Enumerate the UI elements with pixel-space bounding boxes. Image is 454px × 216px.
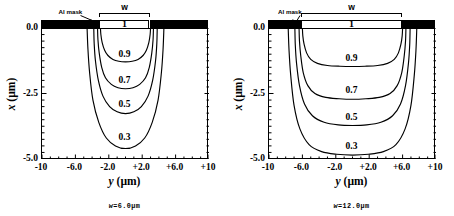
x-axis-variable: y xyxy=(336,175,341,187)
x-tick-label: -10 xyxy=(35,163,48,173)
x-tick-label: +10 xyxy=(428,163,443,173)
x-tick-label: -2.0 xyxy=(327,163,342,173)
surface-baseline xyxy=(268,28,435,29)
panel-right: w Al mask 1 0.90.70.50.3 -10-6.0-2.0+2.0… xyxy=(227,0,454,216)
y-axis-variable: x xyxy=(232,104,244,110)
x-tick-label: -10 xyxy=(262,163,275,173)
bracket-tick-right xyxy=(401,13,402,17)
x-tick-label: +2.0 xyxy=(133,163,150,173)
bracket-tick-right xyxy=(149,13,150,17)
contour-label-0.3: 0.3 xyxy=(345,142,359,152)
y-axis-title: x (µm) xyxy=(6,77,18,110)
contour-label-0.7: 0.7 xyxy=(118,76,132,86)
bracket-bar xyxy=(301,13,401,14)
x-tick-label: +2.0 xyxy=(360,163,377,173)
contour-line-0.5 xyxy=(295,28,410,125)
surface-baseline xyxy=(41,28,208,29)
contour-label-0.5: 0.5 xyxy=(345,113,359,123)
x-axis-unit: (µm) xyxy=(344,175,368,187)
surface-concentration-label: 1 xyxy=(349,19,354,29)
x-tick-label: -2.0 xyxy=(100,163,115,173)
al-mask-label: Al mask xyxy=(278,9,302,15)
contour-label-0.7: 0.7 xyxy=(345,87,359,97)
x-axis-title: y (µm) xyxy=(336,176,368,188)
al-mask-label: Al mask xyxy=(59,9,83,15)
y-tick-label: 0.0 xyxy=(7,23,38,33)
contour-label-0.5: 0.5 xyxy=(118,101,132,111)
y-axis-variable: x xyxy=(5,104,17,110)
contour-label-0.9: 0.9 xyxy=(118,50,132,60)
panel-left: w Al mask 1 0.90.70.50.3 -10-6.0-2.0+2.0… xyxy=(0,0,227,216)
panel-caption-right: w=12.0µm xyxy=(334,203,370,210)
width-label: w xyxy=(121,3,128,12)
y-axis-unit: (µm) xyxy=(232,77,244,101)
surface-concentration-label: 1 xyxy=(122,19,127,29)
y-tick-label: -5.0 xyxy=(7,154,38,164)
x-axis-title: y (µm) xyxy=(109,176,141,188)
x-axis-variable: y xyxy=(109,175,114,187)
bracket-tick-left xyxy=(99,13,100,17)
x-tick-label: -6.0 xyxy=(67,163,82,173)
y-tick-label: -5.0 xyxy=(234,154,265,164)
bracket-bar xyxy=(99,13,149,14)
x-axis-unit: (µm) xyxy=(117,175,141,187)
x-tick-label: -6.0 xyxy=(294,163,309,173)
contour-label-0.3: 0.3 xyxy=(118,133,132,143)
y-tick-label: 0.0 xyxy=(234,23,265,33)
contour-label-0.9: 0.9 xyxy=(345,54,359,64)
contour-figure: w Al mask 1 0.90.70.50.3 -10-6.0-2.0+2.0… xyxy=(0,0,454,216)
width-label: w xyxy=(348,3,355,12)
x-tick-label: +6.0 xyxy=(166,163,183,173)
y-axis-unit: (µm) xyxy=(5,77,17,101)
panel-caption-left: w=6.0µm xyxy=(109,203,140,210)
x-tick-label: +10 xyxy=(201,163,216,173)
y-axis-title: x (µm) xyxy=(233,77,245,110)
x-tick-label: +6.0 xyxy=(393,163,410,173)
